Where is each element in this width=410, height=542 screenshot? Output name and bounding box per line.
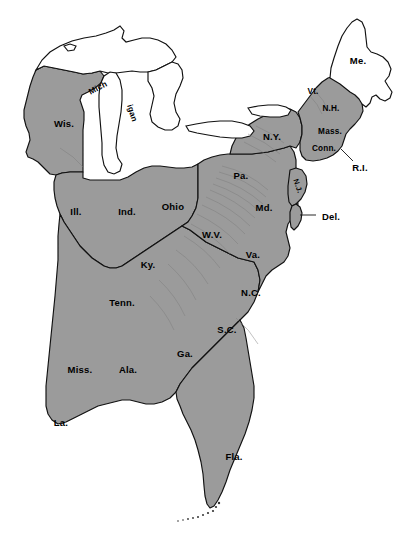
water-lake-ontario [248,105,291,117]
rhode-island-leader-line [341,149,353,161]
water-lake-erie [186,121,254,138]
state-shape-new-jersey [288,168,307,206]
map-canvas [0,0,410,542]
water-lake-huron [148,62,183,130]
water-lake-michigan [99,72,122,174]
state-shape-main-shaded [24,66,104,175]
eastern-us-map: Wis. Mich igan Ill. Ind. Ohio Ky. Tenn. … [0,0,410,542]
state-shape-delaware [290,204,302,230]
water-lake-superior [36,26,176,74]
